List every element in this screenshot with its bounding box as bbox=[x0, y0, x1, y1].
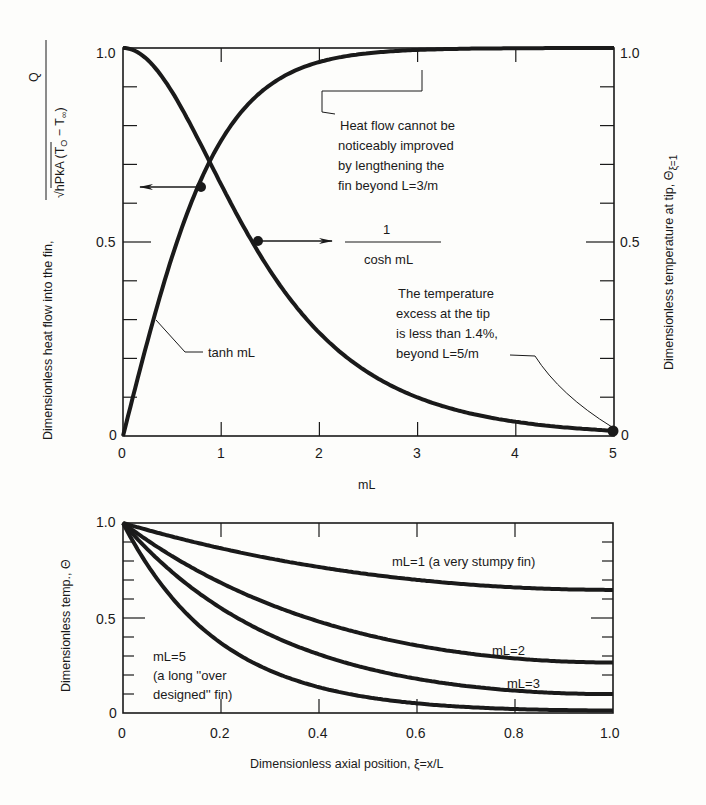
den-main: √hPkA (T bbox=[53, 146, 67, 198]
label-ml3: mL=3 bbox=[507, 676, 540, 691]
tip-note-3: is less than 1.4%, bbox=[396, 326, 498, 341]
tip-note-1: The temperature bbox=[398, 286, 494, 301]
inverse-cosh-curve bbox=[123, 48, 614, 431]
bot-xtick-4: 0.8 bbox=[504, 725, 524, 741]
den-end: ) bbox=[53, 107, 67, 111]
heat-flow-note-2: noticeably improved bbox=[338, 138, 454, 153]
tanh-label: tanh mL bbox=[208, 345, 255, 360]
bottom-xlabel: Dimensionless axial position, ξ=x/L bbox=[250, 757, 444, 771]
xtick-3: 3 bbox=[413, 445, 421, 461]
bot-ytick-mid: 0.5 bbox=[96, 611, 116, 627]
label-ml5-2: (a long ''over bbox=[153, 668, 227, 683]
ytick-right-bot: 0 bbox=[621, 427, 629, 443]
den-mid: − T bbox=[53, 118, 67, 140]
label-ml1: mL=1 (a very stumpy fin) bbox=[392, 554, 535, 569]
den-sub0: O bbox=[59, 140, 69, 147]
ylabel-left-text: Dimensionless heat flow into the fin, bbox=[41, 241, 55, 440]
ylabel-right-sub: ξ=1 bbox=[668, 154, 680, 170]
xtick-0: 0 bbox=[118, 445, 126, 461]
bottom-ylabel-text: Dimensionless temp., Θ bbox=[59, 559, 73, 692]
ylabel-right-main: Dimensionless temperature at tip, Θ bbox=[662, 170, 676, 370]
heat-flow-note-4: fin beyond L=3/m bbox=[338, 178, 438, 193]
tip-marker bbox=[608, 426, 619, 437]
top-ylabel-left-fraction: Q √hPkA (TO − T∞) bbox=[27, 40, 69, 200]
top-ylabel-right: Dimensionless temperature at tip, Θξ=1 bbox=[662, 154, 680, 370]
bottom-ylabel: Dimensionless temp., Θ bbox=[59, 559, 73, 692]
top-chart: 1.0 0.5 0 1.0 0.5 0 0 1 2 3 4 5 mL Dimen… bbox=[27, 40, 680, 492]
cosh-numerator: 1 bbox=[383, 222, 390, 237]
xtick-4: 4 bbox=[511, 445, 519, 461]
ylabel-fraction-den: √hPkA (TO − T∞) bbox=[53, 107, 69, 198]
ylabel-fraction-num: Q bbox=[27, 72, 41, 82]
label-ml2: mL=2 bbox=[492, 643, 525, 658]
tanh-leader bbox=[156, 320, 203, 352]
tip-leader bbox=[510, 355, 612, 427]
top-ylabel-left: Dimensionless heat flow into the fin, bbox=[41, 241, 55, 440]
ytick-right-mid: 0.5 bbox=[620, 234, 640, 250]
tip-note-2: excess at the tip bbox=[396, 306, 490, 321]
bot-xtick-1: 0.2 bbox=[210, 725, 230, 741]
xtick-1: 1 bbox=[217, 445, 225, 461]
ytick-right-top: 1.0 bbox=[620, 45, 640, 61]
bot-ytick-bot: 0 bbox=[109, 705, 117, 721]
bot-xtick-3: 0.6 bbox=[406, 725, 426, 741]
bot-ytick-top: 1.0 bbox=[96, 514, 116, 530]
label-ml5-3: designed'' fin) bbox=[153, 687, 232, 702]
label-ml5-1: mL=5 bbox=[153, 649, 186, 664]
bot-xtick-2: 0.4 bbox=[308, 725, 328, 741]
bot-xtick-5: 1.0 bbox=[600, 725, 620, 741]
heat-flow-note-1: Heat flow cannot be bbox=[340, 118, 455, 133]
ytick-left-top: 1.0 bbox=[96, 45, 116, 61]
xtick-5: 5 bbox=[609, 445, 617, 461]
top-xlabel: mL bbox=[358, 478, 375, 492]
theta-curve-ml1 bbox=[123, 523, 613, 590]
heat-flow-leader bbox=[322, 70, 422, 114]
xtick-2: 2 bbox=[315, 445, 323, 461]
figure: 1.0 0.5 0 1.0 0.5 0 0 1 2 3 4 5 mL Dimen… bbox=[0, 0, 706, 805]
ytick-left-mid: 0.5 bbox=[96, 234, 116, 250]
ylabel-right-text: Dimensionless temperature at tip, Θξ=1 bbox=[662, 154, 680, 370]
cosh-denominator: cosh mL bbox=[364, 252, 413, 267]
heat-flow-note-3: by lengthening the bbox=[338, 158, 444, 173]
tip-note-4: beyond L=5/m bbox=[396, 346, 479, 361]
bottom-chart: 1.0 0.5 0 0 0.2 0.4 0.6 0.8 1.0 Dimensio… bbox=[59, 514, 620, 771]
bot-xtick-0: 0 bbox=[118, 725, 126, 741]
ytick-left-bot: 0 bbox=[109, 427, 117, 443]
